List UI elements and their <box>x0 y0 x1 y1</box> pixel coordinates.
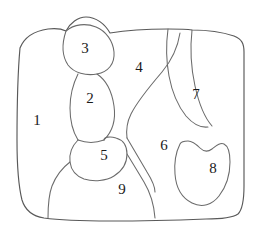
region-label-1: 1 <box>33 112 41 128</box>
region-label-3: 3 <box>81 40 89 56</box>
region-7-left-edge-path <box>167 29 208 127</box>
region-9-left-edge-path <box>48 162 70 218</box>
region-label-9: 9 <box>118 181 126 197</box>
region-label-4: 4 <box>135 59 143 75</box>
region-label-5: 5 <box>100 147 108 163</box>
region-5-outline-path <box>70 137 127 181</box>
region-9-right-edge-path <box>127 154 155 218</box>
region-label-2: 2 <box>86 90 94 106</box>
region-partition-diagram: 1 2 3 4 5 6 7 8 9 <box>0 0 260 237</box>
region-label-7: 7 <box>192 86 200 102</box>
region-8-outline-path <box>175 141 230 205</box>
figure-container: 1 2 3 4 5 6 7 8 9 <box>0 0 260 237</box>
region-7-right-edge-path <box>191 30 212 126</box>
region-label-6: 6 <box>160 137 168 153</box>
region-6-bottom-edge-path <box>127 138 155 192</box>
region-4-6-divider-path <box>127 33 180 138</box>
region-2-bottom-edge-path <box>78 140 104 142</box>
region-2-left-edge-path <box>70 74 78 140</box>
region-label-8: 8 <box>209 160 217 176</box>
region-2-right-edge-path <box>97 74 115 140</box>
